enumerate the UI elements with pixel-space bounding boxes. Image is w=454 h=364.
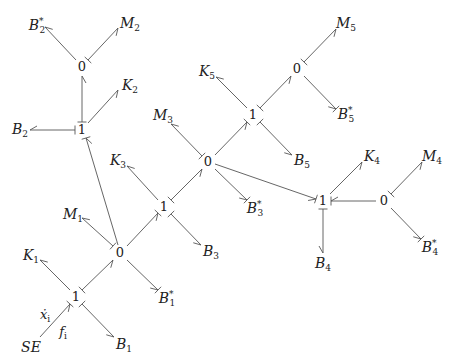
bond-lines	[0, 0, 454, 364]
annotation-xdot: ẋi	[40, 307, 50, 324]
bond	[168, 211, 201, 245]
bond	[127, 210, 161, 246]
one-junction-j1_k3: 1	[159, 200, 169, 214]
element-b1s: B*1	[159, 286, 176, 308]
element-m2: M2	[120, 15, 140, 33]
bond	[127, 260, 161, 293]
bond	[127, 166, 158, 200]
bond	[79, 260, 113, 293]
zero-junction-j0_m1: 0	[115, 246, 125, 260]
bond	[88, 90, 118, 123]
zero-junction-j0_top: 0	[77, 60, 87, 74]
element-b4: B4	[315, 255, 331, 273]
bond	[79, 301, 114, 337]
bond	[330, 162, 362, 194]
element-se: SE	[21, 339, 41, 355]
one-junction-j1_b2: 1	[77, 123, 87, 137]
element-b4s: B*4	[422, 235, 439, 257]
one-junction-j1_se: 1	[71, 290, 81, 304]
bond	[215, 119, 250, 155]
bond	[257, 119, 292, 155]
bond	[78, 76, 87, 122]
bond	[85, 28, 118, 63]
bond	[171, 124, 205, 159]
element-k2: K2	[122, 77, 138, 95]
bond	[45, 27, 76, 60]
bond	[319, 209, 328, 253]
element-b2s: B*2	[29, 13, 46, 35]
zero-junction-j0_m3: 0	[203, 155, 213, 169]
bond	[304, 76, 339, 112]
element-b3: B3	[203, 243, 219, 261]
element-k3: K3	[110, 152, 126, 170]
element-m3: M3	[153, 107, 173, 125]
bond	[168, 169, 202, 203]
bond	[301, 29, 336, 65]
element-b1: B1	[116, 336, 132, 354]
one-junction-j1_k5: 1	[248, 108, 258, 122]
bond	[30, 126, 75, 135]
element-b2: B2	[12, 121, 28, 139]
bond	[40, 260, 70, 290]
zero-junction-j0_m5: 0	[292, 62, 302, 76]
element-m4: M4	[422, 148, 442, 166]
bond-graph-diagram: 0110101010 B*2M2K2B2M3K5M5B*5B5K3B*3K4M4…	[0, 0, 454, 364]
bond	[257, 76, 291, 111]
element-m1: M1	[63, 206, 83, 224]
element-m5: M5	[336, 15, 356, 33]
element-k4: K4	[364, 148, 380, 166]
bond	[388, 162, 422, 197]
element-k5: K5	[199, 63, 215, 81]
bond	[331, 197, 376, 206]
element-b5: B5	[294, 152, 310, 170]
bond	[216, 77, 247, 108]
element-k1: K1	[23, 247, 39, 265]
element-b3s: B*3	[247, 196, 264, 218]
element-b5s: B*5	[338, 102, 355, 124]
annotation-f: fi	[59, 324, 67, 341]
one-junction-j1_k4: 1	[318, 194, 328, 208]
bond	[391, 208, 424, 242]
zero-junction-j0_m4: 0	[379, 194, 389, 208]
